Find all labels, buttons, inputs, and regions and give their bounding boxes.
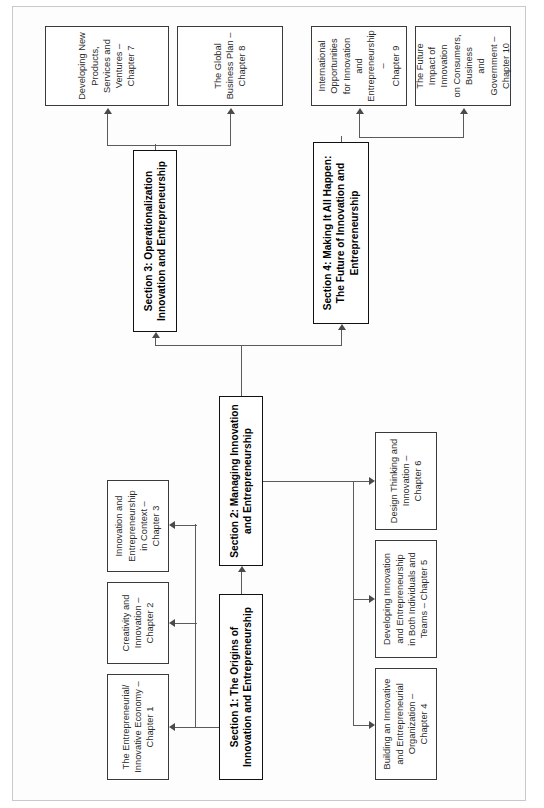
connector-s2-bus [353,482,354,726]
chapter-1-line-2: Innovative Economy – [132,681,144,772]
connector-s1-stem [195,727,219,728]
connector-s1-ch1 [175,727,197,728]
connector-s3-ch7 [107,114,108,146]
arrow-s2-to-s3 [152,332,160,338]
chapter-6-line-2: Innovation – [400,439,412,524]
section-1-line-1: Section 1: The Origins of [228,607,241,767]
arrow-to-chapter-2 [169,619,175,627]
arrow-s1-to-s2 [238,566,246,572]
section-box-1: Section 1: The Origins of Innovation and… [219,594,263,780]
section-2-line-2: and Entrepreneurship [241,404,254,557]
connector-s2-to-s3-v [155,345,241,346]
connector-s2-ch5 [353,599,369,600]
figure-page: Section 1: The Origins of Innovation and… [0,0,544,808]
chapter-3-line-3: in Context – [138,490,150,561]
arrow-to-chapter-1 [169,723,175,731]
chapter-box-7: Developing New Products, Services and Ve… [45,26,169,106]
chapter-7-line-3: Chapter 7 [125,32,137,100]
chapter-5-line-1: Developing Innovation [381,552,393,646]
chapter-2-line-1: Creativity and [120,595,132,652]
arrow-to-chapter-10 [460,108,468,114]
connector-s3-bus [107,145,231,146]
section-1-line-2: Innovation and Entrepreneurship [241,607,254,767]
connector-s2-to-s4-h [341,330,342,346]
chapter-3-line-4: Chapter 3 [150,490,162,561]
connector-s2-stem [263,481,353,482]
chapter-10-line-1: The Future Impact of Innovation [414,32,451,100]
diagram-canvas: Section 1: The Origins of Innovation and… [23,10,521,798]
chapter-10-line-2: on Consumers, Business [451,32,476,100]
section-4-line-2: The Future of Innovation and [334,156,347,311]
chapter-9-line-3: Entrepreneurship – [365,30,390,101]
arrow-to-chapter-3 [169,521,175,529]
connector-s4-stem [341,136,342,142]
chapter-3-line-1: Innovation and [113,490,125,561]
chapter-box-10: The Future Impact of Innovation on Consu… [415,26,511,106]
chapter-9-line-4: Chapter 9 [390,30,402,101]
connector-s1-ch2 [175,623,197,624]
chapter-1-line-1: The Entrepreneurial/ [120,681,132,772]
connector-s4-ch10 [463,114,464,138]
connector-s4-bus [359,137,463,138]
chapter-box-6: Design Thinking and Innovation – Chapter… [375,432,437,530]
chapter-box-3: Innovation and Entrepreneurship in Conte… [107,480,169,572]
connector-s2-ch6 [353,481,369,482]
chapter-5-line-3: in Both Individuals and [406,552,418,646]
section-3-line-2: Innovation and Entrepreneurship [155,161,168,321]
arrow-to-chapter-7 [104,108,112,114]
connector-s2-to-s3-h [241,346,242,396]
connector-s3-ch8 [230,114,231,146]
arrow-to-chapter-6 [369,477,375,485]
chapter-10-line-3: and Government – [475,32,500,100]
chapter-6-line-1: Design Thinking and [388,439,400,524]
chapter-8-line-1: The Global Business Plan – [212,32,237,100]
section-box-4: Section 4: Making It All Happen: The Fut… [313,142,369,324]
chapter-2-line-2: Innovation – [132,595,144,652]
chapter-4-line-1: Building an Innovative [381,679,393,770]
arrow-to-chapter-5 [369,595,375,603]
chapter-9-line-1: International Opportunities [316,30,341,101]
connector-s2-to-s4-v [241,345,341,346]
chapter-box-2: Creativity and Innovation – Chapter 2 [107,582,169,664]
section-box-2: Section 2: Managing Innovation and Entre… [219,396,263,566]
arrow-s2-to-s4 [338,324,346,330]
chapter-10-line-4: Chapter 10 [500,32,512,100]
chapter-1-line-3: Chapter 1 [144,681,156,772]
chapter-box-5: Developing Innovation and Entrepreneursh… [375,540,437,658]
arrow-to-chapter-4 [369,721,375,729]
arrow-to-chapter-9 [356,108,364,114]
section-4-line-3: Entrepreneurship [348,156,361,311]
chapter-5-line-2: and Entrepreneurship [394,552,406,646]
chapter-8-line-2: Chapter 8 [236,32,248,100]
chapter-box-9: International Opportunities for Innovati… [311,26,407,106]
connector-s1-to-s2 [241,572,242,594]
section-box-3: Section 3: Operationalization Innovation… [133,150,177,332]
chapter-2-line-3: Chapter 2 [144,595,156,652]
connector-s2-ch4 [353,725,369,726]
connector-s2-to-s3-h2 [155,338,156,346]
chapter-box-1: The Entrepreneurial/ Innovative Economy … [107,674,169,780]
section-3-line-1: Section 3: Operationalization [142,161,155,321]
arrow-to-chapter-8 [227,108,235,114]
section-4-line-1: Section 4: Making It All Happen: [321,156,334,311]
chapter-7-line-1: Developing New Products, [76,32,101,100]
chapter-7-line-2: Services and Ventures – [101,32,126,100]
connector-s3-stem [155,144,156,150]
chapter-box-8: The Global Business Plan – Chapter 8 [177,26,283,106]
chapter-5-line-4: Teams – Chapter 5 [418,552,430,646]
chapter-4-line-3: Organization – [406,679,418,770]
chapter-box-4: Building an Innovative and Entrepreneuri… [375,668,437,780]
chapter-3-line-2: Entrepreneurship [126,490,138,561]
connector-s4-ch9 [359,114,360,138]
connector-s1-bus [195,524,196,728]
section-2-line-1: Section 2: Managing Innovation [228,404,241,557]
chapter-4-line-4: Chapter 4 [418,679,430,770]
chapter-9-line-2: for Innovation and [341,30,366,101]
connector-s1-ch3 [175,525,197,526]
chapter-4-line-2: and Entrepreneurial [394,679,406,770]
chapter-6-line-3: Chapter 6 [412,439,424,524]
